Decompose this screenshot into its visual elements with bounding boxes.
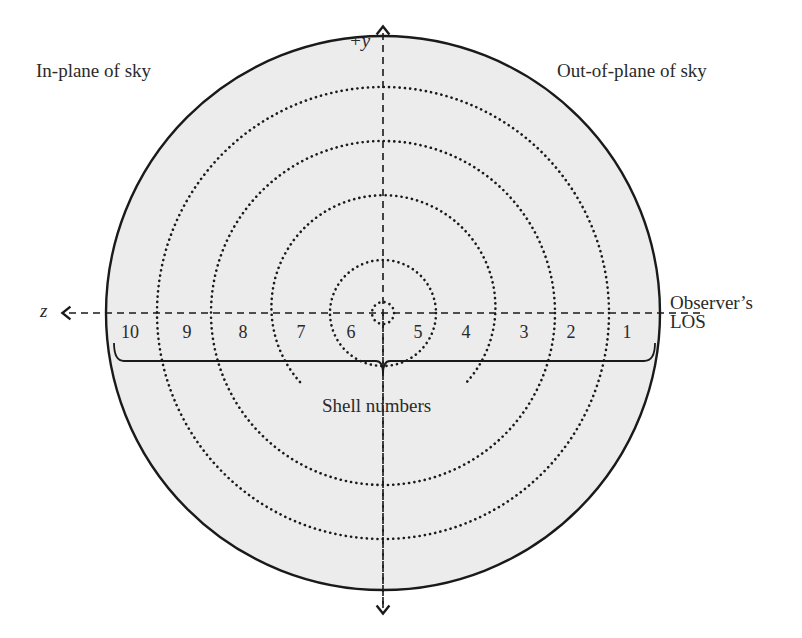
y-axis-label: +y [349,30,370,52]
shell-number-2: 2 [567,322,576,343]
shell-number-3: 3 [520,322,529,343]
shell-numbers-label: Shell numbers [322,395,431,417]
out-plane-label: Out-of-plane of sky [557,60,707,82]
shell-number-1: 1 [623,322,632,343]
in-plane-label: In-plane of sky [36,60,151,82]
observer-los-label: Observer’s LOS [670,293,753,331]
shell-number-9: 9 [183,322,192,343]
shell-number-4: 4 [462,322,471,343]
observer-label-line1: Observer’s [670,293,753,312]
shell-number-6: 6 [347,322,356,343]
shell-number-7: 7 [297,322,306,343]
shell-number-5: 5 [414,322,423,343]
z-axis-label: z [40,300,47,322]
observer-label-line2: LOS [670,312,753,331]
shell-number-10: 10 [121,322,139,343]
shell-number-8: 8 [239,322,248,343]
